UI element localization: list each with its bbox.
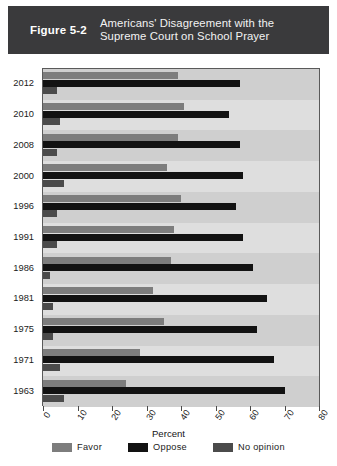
bar-oppose-2008 (43, 141, 240, 148)
legend-item-favor: Favor (52, 442, 102, 452)
legend-swatch-oppose (128, 443, 148, 452)
chart-legend: FavorOpposeNo opinion (0, 442, 337, 452)
bar-favor-1986 (43, 257, 171, 264)
y-axis-label-1963: 1963 (13, 386, 34, 396)
legend-swatch-favor (52, 443, 72, 452)
bar-oppose-1981 (43, 295, 267, 302)
bar-oppose-2010 (43, 111, 229, 118)
bar-noop-1981 (43, 303, 53, 310)
y-axis-label-2010: 2010 (13, 109, 34, 119)
legend-label-favor: Favor (77, 442, 102, 452)
bar-favor-1991 (43, 226, 174, 233)
bar-favor-1975 (43, 318, 164, 325)
x-axis-title: Percent (0, 428, 337, 439)
y-axis-label-2012: 2012 (13, 78, 34, 88)
x-tick-label-50: 50 (213, 408, 227, 422)
figure-title-line-2: Supreme Court on School Prayer (100, 30, 274, 43)
bar-favor-2012 (43, 72, 178, 79)
bar-oppose-1971 (43, 356, 274, 363)
y-axis-label-2000: 2000 (13, 171, 34, 181)
figure-number: Figure 5-2 (30, 24, 87, 36)
bar-favor-1981 (43, 287, 153, 294)
y-axis-label-1991: 1991 (13, 232, 34, 242)
bar-oppose-1963 (43, 387, 285, 394)
x-tick-label-70: 70 (282, 408, 296, 422)
bar-noop-1986 (43, 272, 50, 279)
bar-favor-1971 (43, 349, 140, 356)
figure-banner: Figure 5-2 Americans' Disagreement with … (8, 6, 329, 54)
bar-oppose-1986 (43, 264, 253, 271)
bar-noop-2012 (43, 87, 57, 94)
bar-oppose-2000 (43, 172, 243, 179)
bar-oppose-1975 (43, 326, 257, 333)
y-axis-label-1971: 1971 (13, 355, 34, 365)
y-axis-label-1975: 1975 (13, 324, 34, 334)
figure-title-line-1: Americans' Disagreement with the (100, 17, 274, 30)
y-axis-label-1986: 1986 (13, 263, 34, 273)
bar-favor-2010 (43, 103, 184, 110)
legend-item-oppose: Oppose (128, 442, 187, 452)
x-tick-label-0: 0 (42, 410, 53, 420)
bar-favor-1996 (43, 195, 181, 202)
bar-favor-1963 (43, 380, 126, 387)
legend-label-oppose: Oppose (153, 442, 187, 452)
y-axis-label-2008: 2008 (13, 140, 34, 150)
x-tick-label-80: 80 (316, 408, 330, 422)
bar-oppose-1996 (43, 203, 236, 210)
y-axis-label-1996: 1996 (13, 201, 34, 211)
x-tick-label-30: 30 (144, 408, 158, 422)
x-tick-label-10: 10 (75, 408, 89, 422)
bar-noop-1996 (43, 210, 57, 217)
chart-plot-area (42, 68, 320, 406)
bar-oppose-2012 (43, 80, 240, 87)
bar-favor-2000 (43, 164, 167, 171)
figure-banner-content: Figure 5-2 Americans' Disagreement with … (8, 6, 329, 54)
y-axis-labels: 2012201020082000199619911986198119751971… (0, 68, 38, 406)
bar-noop-1991 (43, 241, 57, 248)
bar-noop-1963 (43, 395, 64, 402)
bar-noop-1971 (43, 364, 60, 371)
bar-layer (43, 69, 319, 405)
bar-noop-2000 (43, 180, 64, 187)
x-tick-label-20: 20 (109, 408, 123, 422)
legend-item-noop: No opinion (213, 442, 285, 452)
x-tick-label-40: 40 (178, 408, 192, 422)
bar-favor-2008 (43, 134, 178, 141)
bar-oppose-1991 (43, 234, 243, 241)
y-axis-label-1981: 1981 (13, 293, 34, 303)
legend-label-noop: No opinion (238, 442, 285, 452)
legend-swatch-noop (213, 443, 233, 452)
bar-noop-2008 (43, 149, 57, 156)
bar-noop-2010 (43, 118, 60, 125)
x-tick-label-60: 60 (247, 408, 261, 422)
bar-noop-1975 (43, 333, 53, 340)
figure-title: Americans' Disagreement with the Supreme… (100, 17, 274, 44)
